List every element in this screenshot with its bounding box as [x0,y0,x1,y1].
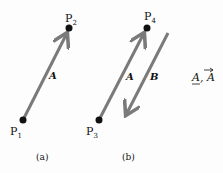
vector-label-a-b: A [126,71,134,82]
point-subscript: 1 [17,132,21,140]
label-p3: P3 [86,126,98,140]
label-p2: P2 [65,13,77,27]
point-p3 [96,117,103,124]
caption-a: (a) [36,152,48,162]
point-subscript: 2 [72,19,76,27]
vector-a-arrow [23,35,66,120]
point-subscript: 4 [151,17,155,25]
label-p1: P1 [10,126,22,140]
vector-label-b: B [150,71,158,82]
diagram-canvas [0,0,223,173]
vector-a-arrow-b [99,35,143,120]
caption-b: (b) [122,152,135,162]
point-subscript: 3 [93,132,97,140]
point-p4 [144,25,151,32]
vector-label-a: A [49,70,57,81]
label-p4: P4 [144,11,156,25]
point-p1 [20,117,27,124]
vector-notation: A, A [192,71,215,84]
